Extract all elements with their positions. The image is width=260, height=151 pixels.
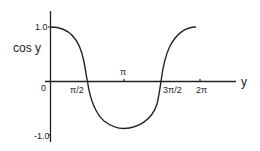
y-axis-label: cos y (13, 41, 41, 55)
x-tick-label-pi-half: π/2 (70, 85, 84, 95)
x-tick-label-2pi: 2π (196, 85, 207, 95)
x-axis-label: y (241, 75, 247, 89)
origin-label: 0 (41, 83, 46, 93)
y-tick-label-1: 1.0 (35, 22, 48, 32)
x-tick-label-pi: π (120, 67, 126, 77)
cosine-curve (51, 27, 196, 129)
x-tick-label-3pi-half: 3π/2 (163, 85, 182, 95)
cosine-chart: 1.0 cos y 0 -1.0 π/2 π 3π/2 2π y (0, 0, 260, 151)
y-tick-label-minus-1: -1.0 (34, 131, 50, 141)
